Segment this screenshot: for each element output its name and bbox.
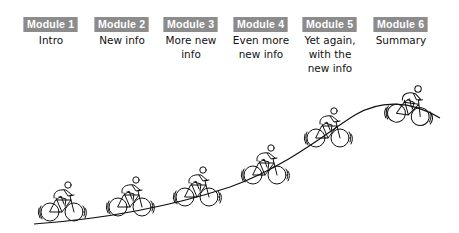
cyclist-icon: [38, 182, 86, 221]
cyclist-icon: [106, 177, 154, 216]
cyclist-icon: [173, 167, 221, 206]
cyclist-icon: [304, 108, 352, 147]
cyclist-icon: [241, 145, 289, 184]
hill-scene: [0, 0, 459, 233]
hill-curve: [34, 104, 440, 224]
